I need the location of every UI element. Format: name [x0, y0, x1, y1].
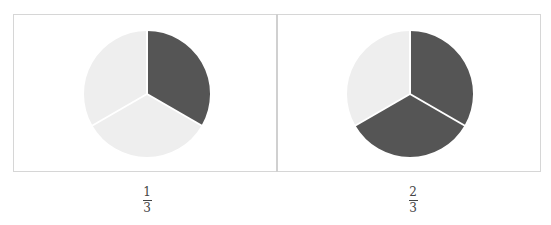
denominator: 3	[409, 201, 417, 215]
pie-chart-left	[84, 30, 210, 158]
pie-two-thirds	[347, 30, 473, 158]
numerator: 1	[143, 185, 151, 199]
denominator: 3	[143, 201, 151, 215]
pie-one-third	[84, 30, 210, 158]
panel-divider	[276, 14, 278, 172]
fraction-label-right: 2 3	[403, 186, 423, 215]
fraction-label-left: 1 3	[137, 186, 157, 215]
numerator: 2	[409, 185, 417, 199]
pie-chart-right	[347, 30, 473, 158]
